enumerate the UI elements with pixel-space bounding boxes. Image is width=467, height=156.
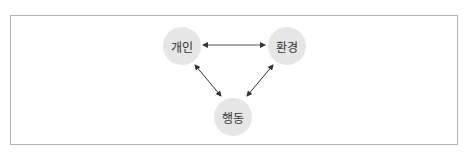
node-environment-label: 환경: [276, 38, 297, 55]
node-behavior-label: 행동: [222, 109, 243, 126]
node-individual: 개인: [163, 27, 201, 65]
node-individual-label: 개인: [171, 38, 192, 55]
arrow-individual-behavior: [195, 65, 221, 96]
node-behavior: 행동: [214, 98, 252, 136]
arrow-environment-behavior: [247, 65, 273, 96]
node-environment: 환경: [268, 27, 306, 65]
